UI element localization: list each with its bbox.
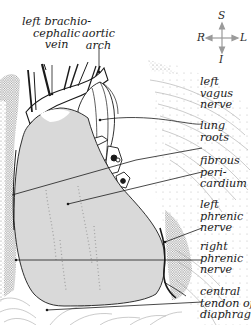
label-fibrous-pericardium: fibrous peri- cardium bbox=[200, 155, 247, 190]
label-right-phrenic-nerve: right phrenic nerve bbox=[200, 241, 243, 276]
anatomy-diagram: left brachio- cephalic vein aortic arch … bbox=[0, 0, 251, 325]
compass-left: L bbox=[240, 31, 247, 43]
compass-superior: S bbox=[218, 9, 225, 21]
fibrous-pericardium-shape bbox=[14, 108, 165, 306]
label-aortic-arch: aortic arch bbox=[82, 28, 115, 51]
diaphragm-lines-left bbox=[0, 298, 36, 325]
label-central-tendon-of-diaphragm: central tendon of diaphragm bbox=[200, 286, 251, 321]
orientation-compass bbox=[206, 23, 238, 53]
compass-inferior: I bbox=[219, 53, 223, 65]
label-lung-roots: lung roots bbox=[200, 120, 229, 143]
compass-right: R bbox=[197, 31, 205, 43]
label-left-brachiocephalic-vein: left brachio- cephalic vein bbox=[22, 16, 91, 51]
label-left-vagus-nerve: left vagus nerve bbox=[200, 76, 233, 111]
label-left-phrenic-nerve: left phrenic nerve bbox=[200, 199, 243, 234]
